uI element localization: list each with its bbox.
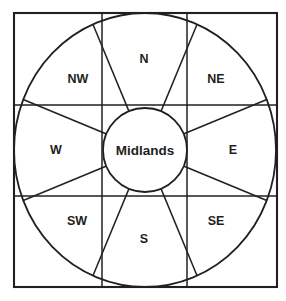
- sector-label-n: N: [139, 52, 148, 66]
- regions-diagram-canvas: NNEESESSWWNW Midlands: [0, 0, 286, 301]
- spoke-line-1: [161, 24, 197, 112]
- spoke-line-4: [23, 166, 107, 201]
- spoke-line-7: [183, 166, 267, 201]
- sector-label-ne: NE: [207, 72, 224, 86]
- sector-label-w: W: [50, 143, 62, 157]
- sector-label-se: SE: [208, 214, 225, 228]
- sector-label-sw: SW: [67, 214, 87, 228]
- sector-label-nw: NW: [68, 72, 89, 86]
- sector-label-e: E: [229, 143, 237, 157]
- regions-diagram: NNEESESSWWNW Midlands: [0, 0, 286, 301]
- midlands-label: Midlands: [116, 143, 175, 158]
- spoke-line-6: [161, 188, 197, 276]
- spoke-line-2: [93, 24, 129, 112]
- spoke-line-5: [93, 188, 129, 276]
- sector-label-s: S: [140, 232, 148, 246]
